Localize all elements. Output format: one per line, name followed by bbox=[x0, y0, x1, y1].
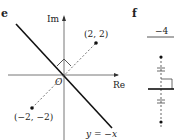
panel-label-f: f bbox=[132, 7, 138, 20]
top-label: −4 bbox=[155, 26, 169, 36]
point-bottom bbox=[159, 120, 162, 123]
point-neg2-neg2-label: (−2, −2) bbox=[14, 112, 53, 122]
real-axis-arrow-icon bbox=[114, 73, 119, 77]
origin-label: O bbox=[55, 77, 63, 87]
point-top bbox=[159, 55, 162, 58]
right-angle-marker bbox=[161, 79, 172, 89]
point-neg2-neg2 bbox=[30, 106, 34, 110]
real-axis-label: Re bbox=[113, 80, 125, 90]
point-2-2-label: (2, 2) bbox=[84, 29, 108, 39]
imaginary-axis-label: Im bbox=[47, 14, 60, 24]
line-label: y = −x bbox=[85, 129, 117, 139]
diagram-canvas: e Im Re O (2, 2) (−2, −2) y = −x f −4 bbox=[0, 0, 174, 140]
imaginary-axis-arrow-icon bbox=[62, 15, 66, 21]
point-2-2 bbox=[94, 41, 98, 45]
panel-label-e: e bbox=[1, 7, 8, 20]
